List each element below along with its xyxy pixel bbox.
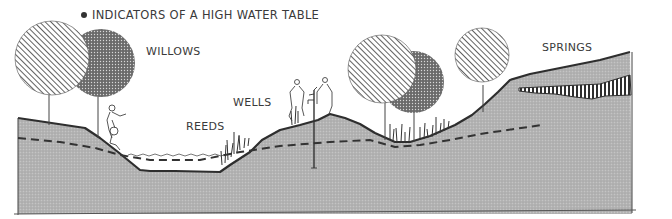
- hatched-tree-canopy: [348, 35, 416, 103]
- hatched-tree-canopy: [455, 28, 509, 82]
- pond-water-surface: [128, 154, 224, 156]
- diagram-title: INDICATORS OF A HIGH WATER TABLE: [81, 10, 319, 22]
- well-pump-handle: [308, 87, 317, 104]
- water-table-diagram: INDICATORS OF A HIGH WATER TABLE WILLOWS…: [0, 0, 672, 219]
- diagram-title-text: INDICATORS OF A HIGH WATER TABLE: [92, 8, 319, 22]
- human-figures-left: [107, 105, 126, 150]
- label-reeds: REEDS: [186, 121, 225, 132]
- hatched-tree-canopy: [15, 21, 89, 95]
- label-springs: SPRINGS: [542, 42, 592, 53]
- bullet-icon: [81, 12, 87, 18]
- label-willows: WILLOWS: [146, 46, 201, 57]
- diagram-canvas: [0, 0, 672, 219]
- label-wells: WELLS: [233, 97, 272, 108]
